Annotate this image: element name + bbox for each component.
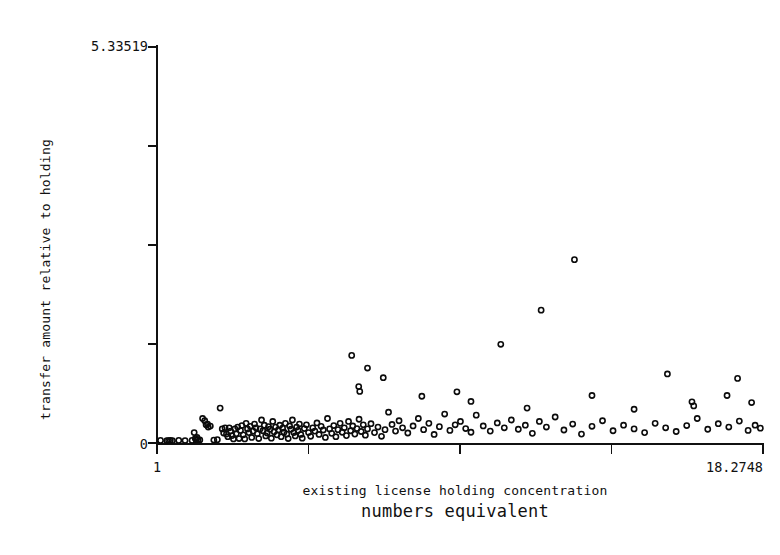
data-point — [691, 403, 696, 408]
data-point — [379, 434, 384, 439]
data-point — [393, 429, 398, 434]
data-point — [344, 433, 349, 438]
data-point — [381, 375, 386, 380]
data-point — [498, 342, 503, 347]
data-point — [684, 423, 689, 428]
data-point — [735, 376, 740, 381]
data-point — [325, 416, 330, 421]
data-point — [304, 422, 309, 427]
data-point — [363, 433, 368, 438]
data-point — [405, 430, 410, 435]
data-point — [665, 371, 670, 376]
x-axis-ticks — [157, 444, 763, 454]
data-point — [726, 424, 731, 429]
data-point — [474, 413, 479, 418]
data-point — [249, 435, 254, 440]
data-point — [589, 393, 594, 398]
data-point — [753, 423, 758, 428]
data-point — [468, 399, 473, 404]
data-point — [502, 425, 507, 430]
data-point — [270, 419, 275, 424]
data-point — [589, 424, 594, 429]
data-point — [197, 437, 202, 442]
data-point — [400, 425, 405, 430]
data-point — [432, 432, 437, 437]
data-point — [416, 416, 421, 421]
data-points-layer — [158, 257, 763, 443]
data-point — [368, 421, 373, 426]
data-point — [437, 424, 442, 429]
data-point — [242, 436, 247, 441]
data-point — [631, 426, 636, 431]
data-point — [389, 422, 394, 427]
y-axis-ticks — [148, 47, 157, 443]
data-point — [705, 427, 710, 432]
data-point — [442, 411, 447, 416]
x-axis-sublabel: numbers equivalent — [361, 501, 549, 521]
y-tick-label-min: 0 — [140, 436, 148, 452]
data-point — [349, 353, 354, 358]
data-point — [523, 423, 528, 428]
data-point — [372, 430, 377, 435]
data-point — [176, 438, 181, 443]
data-point — [300, 436, 305, 441]
axes-group — [156, 45, 764, 444]
data-point — [716, 421, 721, 426]
data-point — [375, 424, 380, 429]
data-point — [426, 421, 431, 426]
data-point — [256, 436, 261, 441]
data-point — [530, 431, 535, 436]
data-point — [539, 308, 544, 313]
data-point — [642, 430, 647, 435]
data-point — [338, 421, 343, 426]
y-axis-label: transfer amount relative to holding — [38, 139, 53, 420]
x-tick-label-max: 18.2748 — [706, 459, 763, 475]
data-point — [323, 435, 328, 440]
data-point — [308, 434, 313, 439]
data-point — [215, 437, 220, 442]
data-point — [509, 417, 514, 422]
scatter-plot-figure: 5.33519 0 1 18.2748 existing license hol… — [0, 0, 780, 555]
y-tick-label-max: 5.33519 — [91, 38, 148, 54]
data-point — [356, 417, 361, 422]
data-point — [610, 428, 615, 433]
data-point — [468, 430, 473, 435]
data-point — [488, 429, 493, 434]
data-point — [600, 418, 605, 423]
data-point — [158, 438, 163, 443]
data-point — [746, 428, 751, 433]
data-point — [695, 416, 700, 421]
data-point — [357, 389, 362, 394]
data-point — [516, 427, 521, 432]
data-point — [269, 436, 274, 441]
data-point — [544, 424, 549, 429]
data-point — [458, 419, 463, 424]
data-point — [663, 425, 668, 430]
data-point — [737, 419, 742, 424]
data-point — [352, 431, 357, 436]
data-point — [447, 428, 452, 433]
plot-canvas: 5.33519 0 1 18.2748 existing license hol… — [0, 0, 780, 555]
data-point — [453, 422, 458, 427]
data-point — [231, 436, 236, 441]
data-point — [674, 429, 679, 434]
data-point — [561, 427, 566, 432]
data-point — [365, 426, 370, 431]
data-point — [316, 432, 321, 437]
data-point — [524, 406, 529, 411]
data-point — [297, 421, 302, 426]
data-point — [333, 434, 338, 439]
data-point — [537, 419, 542, 424]
data-point — [286, 436, 291, 441]
data-point — [724, 393, 729, 398]
data-point — [631, 407, 636, 412]
data-point — [570, 421, 575, 426]
data-point — [481, 423, 486, 428]
data-point — [749, 400, 754, 405]
data-point — [218, 406, 223, 411]
data-point — [386, 410, 391, 415]
data-point — [396, 418, 401, 423]
data-point — [293, 433, 298, 438]
data-point — [410, 423, 415, 428]
data-point — [342, 425, 347, 430]
